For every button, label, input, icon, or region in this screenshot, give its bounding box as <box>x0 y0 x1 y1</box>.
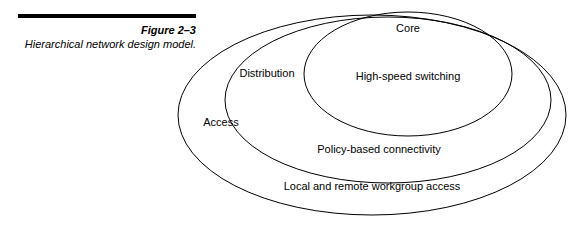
access-detail-label: Local and remote workgroup access <box>284 180 461 192</box>
access-label: Access <box>203 116 239 128</box>
figure-title: Hierarchical network design model. <box>18 38 196 51</box>
distribution-detail-label: Policy-based connectivity <box>317 143 441 155</box>
core-label: Core <box>396 22 420 34</box>
caption-rule <box>18 14 196 18</box>
figure-page: Figure 2–3 Hierarchical network design m… <box>0 0 579 228</box>
core-detail-label: High-speed switching <box>356 70 461 82</box>
distribution-label: Distribution <box>239 67 294 79</box>
figure-caption: Figure 2–3 Hierarchical network design m… <box>18 14 196 51</box>
hierarchical-network-design-diagram: Core High-speed switching Distribution P… <box>176 6 576 224</box>
figure-number: Figure 2–3 <box>18 24 196 37</box>
